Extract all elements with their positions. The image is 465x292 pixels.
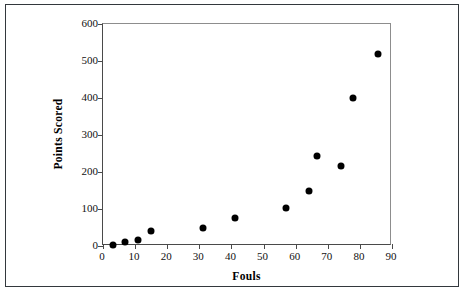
x-axis-title: Fouls (102, 270, 391, 282)
data-point (122, 238, 129, 245)
x-tick-mark (135, 244, 136, 249)
data-point (313, 153, 320, 160)
data-point (337, 162, 344, 169)
x-tick-mark (264, 244, 265, 249)
data-point (231, 215, 238, 222)
data-point (283, 204, 290, 211)
plot-area (102, 23, 391, 245)
data-point (305, 188, 312, 195)
y-tick-mark (98, 61, 103, 62)
y-axis-tick-labels: 0100200300400500600 (70, 23, 98, 245)
x-tick-label: 20 (161, 251, 172, 262)
data-point (350, 95, 357, 102)
y-tick-label: 500 (82, 55, 99, 66)
y-tick-label: 0 (93, 240, 99, 251)
x-tick-label: 30 (193, 251, 204, 262)
chart-page: 0100200300400500600 0102030405060708090 … (0, 0, 465, 292)
y-tick-label: 100 (82, 203, 99, 214)
y-tick-mark (98, 135, 103, 136)
x-tick-mark (199, 244, 200, 249)
x-tick-mark (103, 244, 104, 249)
y-tick-label: 300 (82, 129, 99, 140)
x-tick-mark (167, 244, 168, 249)
y-tick-mark (98, 209, 103, 210)
x-tick-label: 60 (289, 251, 300, 262)
x-tick-label: 0 (99, 251, 105, 262)
y-tick-mark (98, 98, 103, 99)
data-point (374, 50, 381, 57)
x-tick-mark (392, 244, 393, 249)
data-point (135, 236, 142, 243)
x-tick-label: 80 (353, 251, 364, 262)
x-axis-tick-labels: 0102030405060708090 (102, 251, 391, 267)
x-tick-label: 90 (386, 251, 397, 262)
y-tick-mark (98, 24, 103, 25)
y-tick-label: 200 (82, 166, 99, 177)
x-tick-mark (328, 244, 329, 249)
y-tick-mark (98, 172, 103, 173)
data-point (199, 224, 206, 231)
data-point (148, 228, 155, 235)
y-tick-label: 600 (82, 18, 99, 29)
y-axis-title: Points Scored (52, 23, 68, 245)
x-tick-label: 50 (257, 251, 268, 262)
y-tick-label: 400 (82, 92, 99, 103)
data-point (109, 242, 116, 249)
data-points-layer (103, 24, 390, 244)
x-tick-mark (296, 244, 297, 249)
x-tick-label: 10 (129, 251, 140, 262)
x-tick-mark (360, 244, 361, 249)
x-tick-mark (231, 244, 232, 249)
x-tick-label: 70 (321, 251, 332, 262)
x-tick-label: 40 (225, 251, 236, 262)
